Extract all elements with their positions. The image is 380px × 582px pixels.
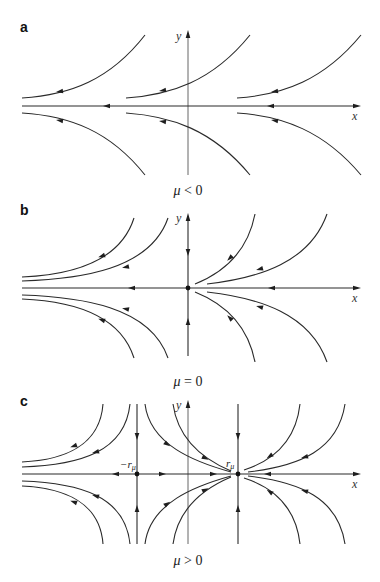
panel-b: b y x — [20, 202, 361, 389]
fixed-point-saddle — [135, 472, 140, 477]
x-axis-label: x — [351, 477, 358, 491]
y-axis-arrow-icon — [186, 30, 191, 38]
panel-label-a: a — [20, 19, 28, 35]
saddle-label: −rμ — [120, 458, 136, 472]
flow-arrow-down-icon — [135, 433, 140, 440]
y-axis-label: y — [175, 29, 182, 43]
x-axis-arrow-icon — [353, 104, 361, 109]
flow-arrow-up-icon — [186, 318, 191, 325]
fixed-point-origin — [186, 286, 191, 291]
phase-portrait-figure: a y x — [0, 0, 380, 582]
y-axis-label: y — [175, 211, 182, 225]
y-axis-arrow-icon — [186, 400, 191, 408]
x-axis-arrow-icon — [353, 286, 361, 291]
fixed-point-node — [236, 472, 241, 477]
flow-arrow-down-icon — [236, 433, 241, 440]
x-axis-label: x — [351, 291, 358, 305]
x-axis-arrow-icon — [353, 472, 361, 477]
caption-b: μ = 0 — [173, 374, 203, 389]
trajectories-lower — [22, 113, 361, 175]
panel-a: a y x — [20, 19, 361, 198]
flow-arrow-up-icon — [135, 505, 140, 512]
panel-label-b: b — [20, 202, 29, 218]
flow-arrow-up-icon — [236, 505, 241, 512]
panel-label-c: c — [20, 393, 28, 409]
panel-c: c y x −rμ rμ — [20, 393, 361, 568]
x-axis-label: x — [351, 109, 358, 123]
trajectories-upper — [22, 35, 361, 98]
flow-arrow-down-icon — [186, 249, 191, 256]
y-axis-arrow-icon — [186, 213, 191, 221]
y-axis-label: y — [175, 398, 182, 412]
caption-c: μ > 0 — [173, 553, 203, 568]
caption-a: μ < 0 — [173, 183, 203, 198]
